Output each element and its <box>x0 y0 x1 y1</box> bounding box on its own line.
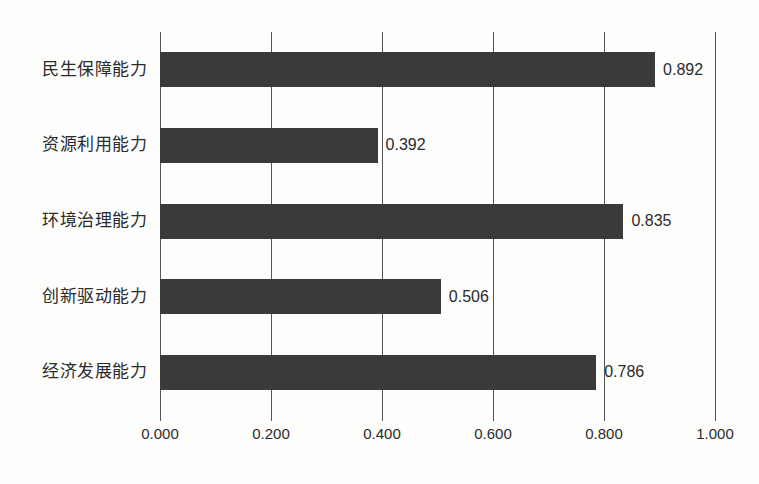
category-label: 资源利用能力 <box>2 136 147 153</box>
bar-value-label: 0.392 <box>386 137 426 153</box>
bottom-caption <box>0 472 759 484</box>
plot-area: 0.8920.3920.8350.5060.786 <box>160 32 715 410</box>
bar-chart: 0.8920.3920.8350.5060.786 民生保障能力资源利用能力环境… <box>0 0 759 484</box>
bar[interactable] <box>160 355 596 390</box>
bar[interactable] <box>160 52 655 87</box>
x-tick-mark <box>271 410 272 421</box>
x-tick-mark <box>715 410 716 421</box>
bars-layer: 0.8920.3920.8350.5060.786 <box>160 32 715 410</box>
x-tick-label: 0.600 <box>448 426 538 441</box>
x-tick-label: 0.000 <box>115 426 205 441</box>
x-tick-label: 1.000 <box>670 426 759 441</box>
category-label: 民生保障能力 <box>2 61 147 78</box>
bar-value-label: 0.835 <box>631 213 671 229</box>
bar-value-label: 0.506 <box>449 289 489 305</box>
x-tick-label: 0.400 <box>337 426 427 441</box>
category-label: 经济发展能力 <box>2 363 147 380</box>
bar-row: 0.892 <box>160 52 715 87</box>
bar[interactable] <box>160 279 441 314</box>
bar-row: 0.392 <box>160 128 715 163</box>
bar-row: 0.835 <box>160 204 715 239</box>
category-label: 创新驱动能力 <box>2 288 147 305</box>
bar[interactable] <box>160 128 378 163</box>
x-tick-label: 0.200 <box>226 426 316 441</box>
bar-row: 0.786 <box>160 355 715 390</box>
bar-row: 0.506 <box>160 279 715 314</box>
x-tick-label: 0.800 <box>559 426 649 441</box>
bar-value-label: 0.786 <box>604 364 644 380</box>
x-tick-mark <box>382 410 383 421</box>
x-tick-mark <box>160 410 161 421</box>
bar[interactable] <box>160 204 623 239</box>
gridline-1.000 <box>715 32 716 410</box>
x-tick-mark <box>493 410 494 421</box>
category-label: 环境治理能力 <box>2 212 147 229</box>
x-tick-mark <box>604 410 605 421</box>
bar-value-label: 0.892 <box>663 62 703 78</box>
